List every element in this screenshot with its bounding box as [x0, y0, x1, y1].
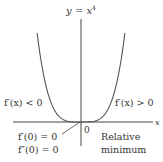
pointer-line	[62, 122, 80, 134]
second-derivative-note: f″(0) = 0	[18, 144, 59, 155]
relative-minimum-label-line1: Relative	[101, 131, 141, 142]
x-axis-label: x	[155, 118, 160, 127]
origin-label: 0	[84, 125, 90, 135]
left-derivative-annotation: f′(x) < 0	[4, 97, 43, 108]
function-label: y = x4	[65, 4, 96, 16]
relative-minimum-label-line2: minimum	[101, 144, 146, 155]
right-derivative-annotation: f′(x) > 0	[115, 97, 154, 108]
first-derivative-note: f′(0) = 0	[18, 131, 57, 142]
diagram-canvas: y = x4 x 0 f′(x) < 0 f′(x) > 0 f′(0) = 0…	[0, 0, 163, 162]
